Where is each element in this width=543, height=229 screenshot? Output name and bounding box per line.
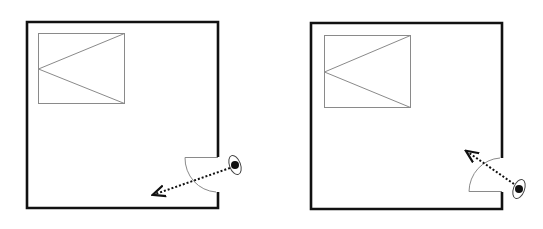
bed-icon [325,36,411,108]
floor-plan-right [311,23,528,209]
door-swing-icon [185,158,218,193]
sight-arrow [467,152,514,185]
diagram-canvas [0,0,543,229]
door-swing-icon [469,158,502,192]
room-walls [27,22,218,208]
eye-icon [226,154,243,177]
bed-icon [39,34,125,104]
eye-icon [510,178,527,201]
floor-plan-left [27,22,244,208]
room-walls [311,23,502,209]
sight-arrow [154,168,230,195]
